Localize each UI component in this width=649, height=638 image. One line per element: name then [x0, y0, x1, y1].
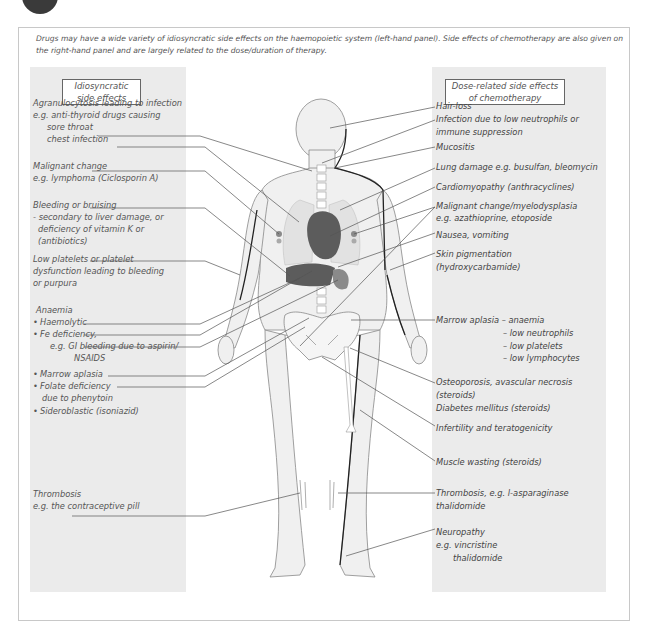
label-infection-neutrophils: Infection due to low neutrophils or	[436, 113, 579, 126]
label-sideroblastic: Sideroblastic (isoniazid)	[33, 405, 139, 418]
label-thalidomide-thrombosis: thalidomide	[436, 500, 485, 513]
label-nsaids: NSAIDS	[74, 352, 105, 365]
label-infertility: Infertility and teratogenicity	[436, 422, 553, 435]
label-thrombosis-left: Thrombosis	[33, 488, 81, 501]
label-sore-throat: sore throat	[47, 121, 93, 134]
label-folate-deficiency: Folate deficiency	[33, 380, 111, 393]
label-platelet-dysfunction: dysfunction leading to bleeding	[33, 265, 164, 278]
label-agranulocytosis-example: e.g. anti-thyroid drugs causing	[33, 109, 161, 122]
label-skin-pigmentation: Skin pigmentation	[436, 248, 512, 261]
label-mucositis: Mucositis	[436, 141, 475, 154]
label-anaemia: Anaemia	[36, 304, 73, 317]
label-thalidomide-neuropathy: thalidomide	[453, 552, 502, 565]
label-antibiotics: (antibiotics)	[38, 235, 87, 248]
label-phenytoin: due to phenytoin	[42, 392, 113, 405]
label-hydroxycarbamide: (hydroxycarbamide)	[436, 261, 520, 274]
label-marrow-aplasia-left: Marrow aplasia	[33, 368, 103, 381]
label-agranulocytosis: Agranulocytosis leading to infection	[33, 97, 182, 110]
label-vitamin-k: deficiency of vitamin K or	[38, 223, 144, 236]
label-muscle-wasting: Muscle wasting (steroids)	[436, 456, 542, 469]
label-lymphoma: e.g. lymphoma (Ciclosporin A)	[33, 172, 158, 185]
label-nausea: Nausea, vomiting	[436, 229, 509, 242]
label-fe-deficiency: Fe deficiency,	[33, 328, 97, 341]
label-neuropathy: Neuropathy	[436, 526, 485, 539]
label-purpura: or purpura	[33, 277, 77, 290]
label-malignant-change: Malignant change	[33, 160, 107, 173]
label-chest-infection: chest infection	[47, 133, 108, 146]
label-myelodysplasia: Malignant change/myelodysplasia	[436, 200, 577, 213]
label-azathioprine: e.g. azathioprine, etoposide	[436, 212, 552, 225]
label-immune-suppression: immune suppression	[436, 126, 523, 139]
liver-organ	[286, 264, 335, 287]
label-bleeding-bruising: Bleeding or bruising	[33, 199, 116, 212]
label-thrombosis-right: Thrombosis, e.g. l-asparaginase	[436, 487, 569, 500]
label-haemolytic: Haemolytic	[33, 316, 87, 329]
human-body-figure	[0, 0, 649, 638]
label-contraceptive-pill: e.g. the contraceptive pill	[33, 500, 140, 513]
label-low-neutrophils: – low neutrophils	[503, 327, 573, 340]
label-cardiomyopathy: Cardiomyopathy (anthracyclines)	[436, 181, 575, 194]
label-gi-bleeding: e.g. GI bleeding due to aspirin/	[50, 340, 178, 353]
label-marrow-aplasia-right: Marrow aplasia – anaemia	[436, 314, 544, 327]
label-diabetes: Diabetes mellitus (steroids)	[436, 402, 551, 415]
label-osteoporosis: Osteoporosis, avascular necrosis	[436, 376, 572, 389]
label-low-lymphocytes: – low lymphocytes	[503, 352, 580, 365]
label-liver-damage: - secondary to liver damage, or	[33, 211, 164, 224]
label-vincristine: e.g. vincristine	[436, 539, 497, 552]
label-osteoporosis-steroids: (steroids)	[436, 389, 476, 402]
label-hair-loss: Hair-loss	[436, 100, 472, 113]
label-lung-damage: Lung damage e.g. busulfan, bleomycin	[436, 161, 598, 174]
label-low-platelets: – low platelets	[503, 340, 563, 353]
label-low-platelets: Low platelets or platelet	[33, 253, 134, 266]
